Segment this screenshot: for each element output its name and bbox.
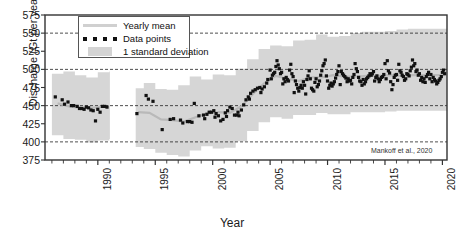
legend-dots-swatch	[83, 36, 117, 41]
x-tick-label-2020: 2020	[446, 168, 457, 190]
chart-legend: Yearly meanData points1 standard deviati…	[78, 16, 190, 58]
legend-label: 1 standard deviation	[123, 46, 209, 57]
x-tick-label-1995: 1995	[159, 168, 170, 190]
y-axis-title: Discharge (Gt per year)	[27, 0, 39, 129]
legend-key-patch	[82, 46, 118, 57]
x-tick-label-2000: 2000	[217, 168, 228, 190]
legend-key-dots	[82, 33, 118, 44]
attribution-text: Mankoff et al., 2020	[371, 147, 432, 154]
x-axis-tick-labels: 1990199520002005201020152020	[0, 0, 464, 239]
x-tick-label-1990: 1990	[102, 168, 113, 190]
x-tick-label-2005: 2005	[274, 168, 285, 190]
legend-item-2: 1 standard deviation	[79, 45, 189, 58]
discharge-time-series-figure: 375400425450475500525550575 199019952000…	[0, 0, 464, 239]
legend-label: Yearly mean	[123, 20, 175, 31]
x-tick-label-2015: 2015	[389, 168, 400, 190]
legend-patch-swatch	[88, 47, 112, 56]
legend-label: Data points	[123, 33, 171, 44]
legend-line-swatch	[83, 24, 117, 27]
x-axis-title: Year	[0, 216, 464, 230]
legend-key-line	[82, 20, 118, 31]
x-tick-label-2010: 2010	[332, 168, 343, 190]
legend-item-1: Data points	[79, 32, 189, 45]
legend-item-0: Yearly mean	[79, 19, 189, 32]
